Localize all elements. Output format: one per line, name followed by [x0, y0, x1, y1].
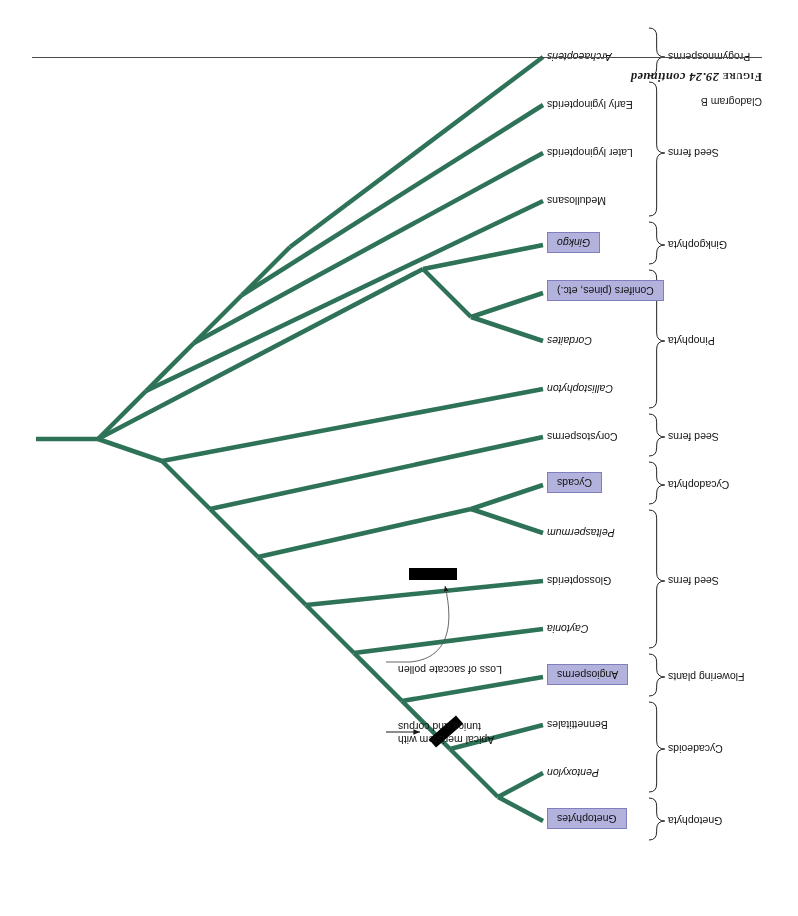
taxon-tip-callistophyton: Callistophyton — [547, 381, 798, 397]
group-label-text: Seed ferns — [668, 575, 719, 587]
taxon-tip-medullosans: Medullosans — [547, 193, 798, 209]
group-label-text: Gnetophyta — [668, 815, 722, 827]
group-label-seed-ferns: Seed ferns — [668, 574, 798, 588]
group-label-gnetophyta: Gnetophyta — [668, 814, 798, 828]
group-label-text: Seed ferns — [668, 147, 719, 159]
annotation-apical-meristem: Apical meristem with tunica and corpus — [398, 720, 798, 746]
group-label-ginkgophyta: Ginkgophyta — [668, 238, 798, 252]
saccate-pollen-curve — [410, 586, 449, 662]
taxon-label-text: Gnetophytes — [547, 808, 627, 829]
group-label-seed-ferns: Seed ferns — [668, 430, 798, 444]
taxon-label-text: Ginkgo — [547, 232, 600, 253]
group-label-pinophyta: Pinophyta — [668, 334, 798, 348]
taxon-tip-pentoxylon: Pentoxylon — [547, 765, 798, 781]
taxon-label-text: Conifers (pines, etc.) — [547, 280, 664, 301]
taxon-label-text: Peltaspermum — [547, 525, 615, 541]
figure-caption: Figure 29.24 continued — [32, 69, 762, 84]
taxon-label-text: Corystosperms — [547, 429, 618, 445]
group-label-text: Ginkgophyta — [668, 239, 727, 251]
bar-saccate-pollen — [409, 568, 457, 580]
annotation-saccate-pollen: Loss of saccate pollen — [398, 663, 798, 676]
taxon-label-text: Pentoxylon — [547, 765, 599, 781]
group-label-text: Cycadophyta — [668, 479, 729, 491]
group-label-text: Pinophyta — [668, 335, 715, 347]
figure-caption-rest: 29.24 continued — [630, 70, 722, 84]
upside-down-figure-container: GnetophytesPentoxylonBennettitalesAngios… — [0, 0, 798, 916]
taxon-label-text: Callistophyton — [547, 381, 613, 397]
taxon-label-text: Medullosans — [547, 193, 606, 209]
taxon-label-text: Cordaites — [547, 333, 592, 349]
taxon-label-text: Later lyginopterids — [547, 145, 633, 161]
header-rule — [32, 57, 762, 58]
taxon-label-text: Cycads — [547, 472, 602, 493]
taxon-tip-conifers-pines-etc: Conifers (pines, etc.) — [547, 285, 798, 301]
cladogram-subtitle: Cladogram B — [32, 96, 762, 108]
taxon-label-text: Caytonia — [547, 621, 588, 637]
group-label-seed-ferns: Seed ferns — [668, 146, 798, 160]
taxon-tip-peltaspermum: Peltaspermum — [547, 525, 798, 541]
taxon-tip-caytonia: Caytonia — [547, 621, 798, 637]
group-label-cycadophyta: Cycadophyta — [668, 478, 798, 492]
taxon-label-text: Glossopterids — [547, 573, 611, 589]
figure-page: GnetophytesPentoxylonBennettitalesAngios… — [0, 0, 798, 916]
figure-caption-prefix: Figure — [722, 70, 762, 84]
group-label-text: Seed ferns — [668, 431, 719, 443]
